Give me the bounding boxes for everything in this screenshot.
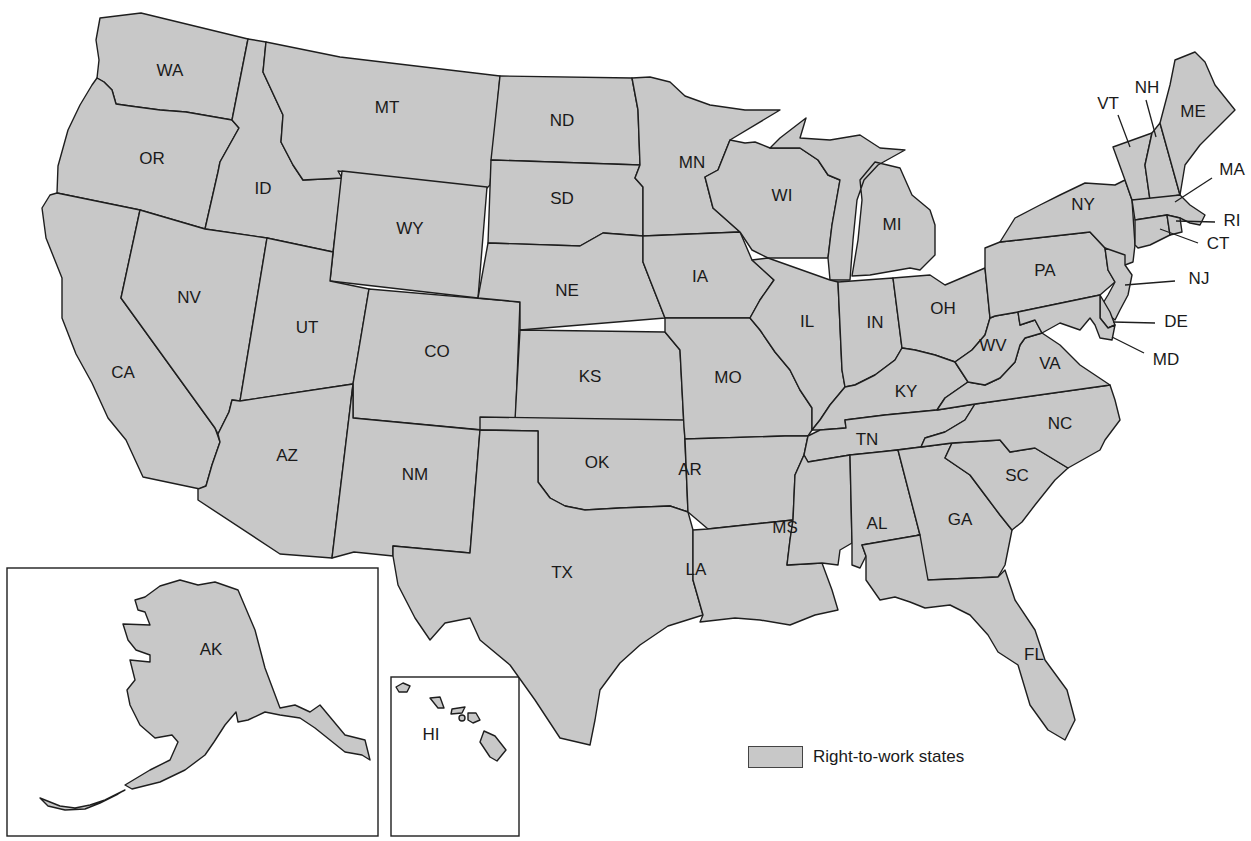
label-nc: NC (1048, 414, 1073, 433)
label-ca: CA (111, 363, 135, 382)
label-nv: NV (177, 288, 201, 307)
label-nh: NH (1135, 78, 1160, 97)
label-wv: WV (979, 336, 1007, 355)
label-ky: KY (895, 382, 918, 401)
label-tx: TX (551, 563, 573, 582)
label-mt: MT (375, 98, 400, 117)
label-la: LA (686, 560, 707, 579)
label-co: CO (424, 342, 450, 361)
leader-vt (1118, 115, 1130, 147)
label-nj: NJ (1189, 269, 1210, 288)
label-md: MD (1153, 350, 1179, 369)
state-hi-lanai (459, 715, 465, 721)
legend-swatch (748, 746, 803, 768)
label-vt: VT (1097, 94, 1119, 113)
label-sd: SD (550, 189, 574, 208)
label-ny: NY (1071, 195, 1095, 214)
label-al: AL (867, 514, 888, 533)
legend: Right-to-work states (748, 746, 964, 768)
label-ga: GA (948, 510, 973, 529)
state-ar (685, 436, 808, 529)
label-de: DE (1164, 312, 1188, 331)
label-in: IN (867, 313, 884, 332)
label-oh: OH (930, 299, 956, 318)
label-wy: WY (396, 219, 423, 238)
label-nd: ND (550, 111, 575, 130)
label-va: VA (1039, 354, 1061, 373)
leader-nh (1146, 100, 1156, 137)
leader-nj (1125, 281, 1175, 285)
label-mi: MI (883, 215, 902, 234)
label-ri: RI (1224, 211, 1241, 230)
label-mn: MN (679, 153, 705, 172)
label-ar: AR (678, 460, 702, 479)
label-ma: MA (1219, 160, 1245, 179)
leader-de (1113, 322, 1155, 323)
label-pa: PA (1034, 261, 1056, 280)
label-wi: WI (772, 186, 793, 205)
label-ms: MS (772, 518, 798, 537)
label-ne: NE (555, 281, 579, 300)
us-map: WA OR CA ID NV MT WY UT AZ CO NM ND SD N… (0, 0, 1251, 841)
label-tn: TN (856, 430, 879, 449)
label-sc: SC (1005, 466, 1029, 485)
label-ok: OK (585, 453, 610, 472)
state-ct (1135, 215, 1170, 248)
label-ct: CT (1207, 234, 1230, 253)
leader-ri (1176, 221, 1215, 222)
label-ia: IA (692, 267, 709, 286)
label-id: ID (255, 179, 272, 198)
label-me: ME (1180, 102, 1206, 121)
label-il: IL (800, 312, 814, 331)
label-ut: UT (296, 318, 319, 337)
leader-md (1112, 337, 1144, 353)
label-az: AZ (276, 446, 298, 465)
state-ms (787, 455, 852, 565)
label-fl: FL (1024, 645, 1044, 664)
label-ks: KS (579, 367, 602, 386)
label-mo: MO (714, 368, 741, 387)
legend-label: Right-to-work states (813, 747, 964, 767)
label-or: OR (139, 149, 165, 168)
label-wa: WA (157, 61, 184, 80)
label-hi: HI (423, 725, 440, 744)
label-nm: NM (402, 465, 428, 484)
label-ak: AK (200, 640, 223, 659)
